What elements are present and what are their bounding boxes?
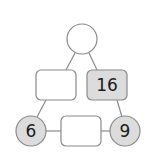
side-right-value: 16 [96, 75, 118, 95]
corner-bottom-right-value: 9 [120, 121, 131, 141]
corner-bottom-right: 9 [110, 116, 140, 146]
arithmagon-diagram: 16 6 9 [0, 0, 156, 159]
line-top-right [89, 53, 97, 70]
corner-bottom-left: 6 [16, 116, 46, 146]
side-right: 16 [87, 70, 127, 100]
corner-bottom-left-value: 6 [26, 121, 37, 141]
side-bottom[interactable] [61, 116, 101, 146]
line-left-bottom [37, 100, 46, 117]
line-right-bottom [117, 100, 122, 117]
corner-top[interactable] [67, 24, 97, 54]
side-left[interactable] [36, 70, 76, 100]
line-top-left [66, 53, 75, 70]
